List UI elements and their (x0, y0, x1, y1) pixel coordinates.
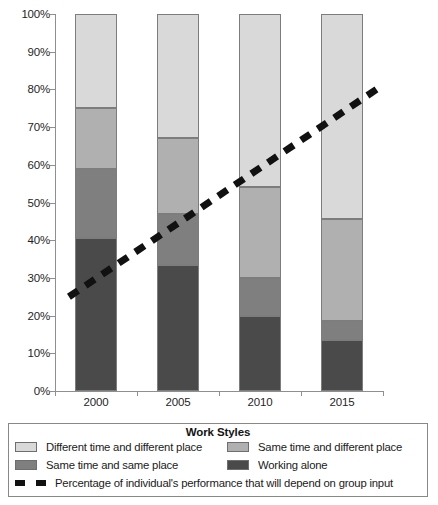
bar-segment (321, 340, 363, 391)
legend-row: Same time and same place Working alone (9, 456, 427, 474)
x-axis: 2000 2005 2010 2015 (0, 396, 438, 418)
bar-2015 (321, 14, 363, 391)
bar-segment (75, 169, 117, 239)
bar-segment (75, 108, 117, 168)
bar-2010 (239, 14, 281, 391)
legend-label: Working alone (258, 459, 327, 471)
legend-title: Work Styles (9, 426, 427, 438)
legend-label: Different time and different place (46, 441, 202, 453)
legend-label: Same time and different place (258, 441, 402, 453)
legend-swatch-icon (227, 442, 249, 452)
bar-segment (239, 316, 281, 391)
bar-segment (157, 138, 199, 213)
legend-label: Same time and same place (46, 459, 178, 471)
x-tick-label: 2005 (148, 396, 208, 408)
chart-legend: Work Styles Different time and different… (8, 423, 428, 497)
bar-segment (239, 278, 281, 316)
bar-2005 (157, 14, 199, 391)
bar-segment (75, 14, 117, 108)
stacked-bar-chart: 100% 90% 80% 70% 60% 50% 40% 30% 20% 10%… (0, 0, 438, 505)
legend-swatch-icon (15, 460, 37, 470)
bar-segment (157, 14, 199, 138)
x-tick-label: 2015 (312, 396, 372, 408)
bar-segment (75, 238, 117, 391)
bar-segment (321, 219, 363, 321)
legend-label: Percentage of individual's performance t… (55, 477, 393, 489)
bar-segment (321, 321, 363, 340)
bar-segment (321, 14, 363, 219)
legend-entry-different-time-different-place[interactable]: Different time and different place (15, 438, 227, 456)
dashed-line-icon (15, 478, 46, 488)
x-tick-label: 2010 (230, 396, 290, 408)
legend-entry-trend-line[interactable]: Percentage of individual's performance t… (9, 474, 427, 492)
bar-2000 (75, 14, 117, 391)
bars-layer (0, 0, 438, 418)
x-tick-label: 2000 (66, 396, 126, 408)
bar-segment (157, 214, 199, 265)
bar-segment (239, 14, 281, 187)
legend-entry-same-time-same-place[interactable]: Same time and same place (15, 456, 227, 474)
legend-entry-same-time-different-place[interactable]: Same time and different place (227, 438, 427, 456)
bar-segment (239, 187, 281, 277)
plot-area: 100% 90% 80% 70% 60% 50% 40% 30% 20% 10%… (0, 0, 438, 418)
bar-segment (157, 265, 199, 391)
legend-row: Different time and different place Same … (9, 438, 427, 456)
legend-entry-working-alone[interactable]: Working alone (227, 456, 427, 474)
legend-swatch-icon (227, 460, 249, 470)
legend-swatch-icon (15, 442, 37, 452)
